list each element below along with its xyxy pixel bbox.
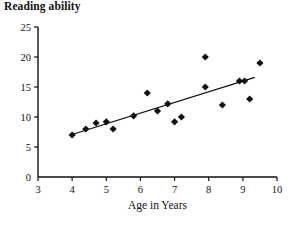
data-point-marker bbox=[256, 59, 263, 66]
x-tick-label: 4 bbox=[70, 184, 76, 195]
x-axis-title: Age in Years bbox=[38, 199, 277, 211]
x-tick-label: 6 bbox=[138, 184, 143, 195]
y-axis: 0510152025 bbox=[21, 22, 39, 183]
data-point-marker bbox=[178, 113, 185, 120]
data-point-marker bbox=[241, 77, 248, 84]
data-point-marker bbox=[202, 53, 209, 60]
y-tick-label: 10 bbox=[21, 112, 32, 123]
x-tick-label: 10 bbox=[272, 184, 283, 195]
data-point-marker bbox=[144, 89, 151, 96]
y-tick-label: 25 bbox=[21, 22, 32, 33]
trendline bbox=[70, 77, 254, 135]
data-point-marker bbox=[69, 131, 76, 138]
chart-canvas: 0510152025 345678910 bbox=[0, 0, 292, 229]
data-point-marker bbox=[202, 83, 209, 90]
y-tick-label: 20 bbox=[21, 52, 32, 63]
x-tick-label: 5 bbox=[104, 184, 109, 195]
data-point-marker bbox=[171, 118, 178, 125]
data-point-marker bbox=[110, 125, 117, 132]
data-point-marker bbox=[219, 101, 226, 108]
y-tick-label: 0 bbox=[26, 172, 31, 183]
x-tick-label: 3 bbox=[35, 184, 40, 195]
data-point-marker bbox=[92, 119, 99, 126]
x-tick-label: 9 bbox=[240, 184, 245, 195]
y-tick-label: 15 bbox=[21, 82, 32, 93]
x-tick-label: 8 bbox=[206, 184, 211, 195]
x-tick-label: 7 bbox=[172, 184, 177, 195]
data-point-marker bbox=[246, 95, 253, 102]
data-point-marker bbox=[164, 100, 171, 107]
x-axis: 345678910 bbox=[35, 177, 282, 195]
scatter-chart: Reading ability 0510152025 345678910 Age… bbox=[0, 0, 292, 229]
y-tick-label: 5 bbox=[26, 142, 31, 153]
data-point-marker bbox=[130, 112, 137, 119]
